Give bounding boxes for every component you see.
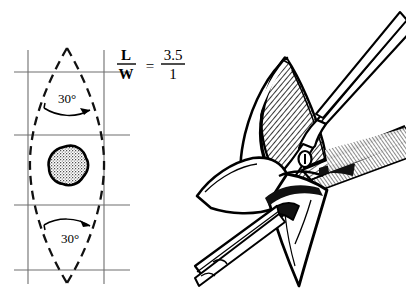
formula-denominator-left: W [119,66,134,82]
formula-numerator-left: L [121,47,131,63]
apex-angle-bottom: 30° [44,219,90,246]
surgical-dissection-illustration [195,0,406,305]
formula-denominator-right: 1 [169,66,177,82]
surgical-technique-figure: 30° 30° [0,0,406,305]
apex-angle-top-label: 30° [58,91,76,106]
stippled-lesion [49,146,89,186]
formula-numerator-right: 3.5 [164,47,183,63]
apex-angle-bottom-label: 30° [61,231,79,246]
forceps-lower-shaft [195,214,285,286]
ratio-formula: L W = 3.5 1 [117,47,185,82]
angle-arrow-tail-top [44,103,45,108]
scissors-lower-blade [316,12,406,118]
angle-arrowhead-bottom [80,220,90,227]
angle-arrow-tail-bottom [44,225,45,230]
scissors-pivot-screw [299,151,312,167]
elliptical-excision-diagram: 30° 30° [0,0,200,305]
forceps-shaft-midline [197,211,279,272]
apex-angle-top: 30° [44,91,90,115]
lesion-body [49,146,89,186]
formula-equals-sign: = [146,58,154,74]
